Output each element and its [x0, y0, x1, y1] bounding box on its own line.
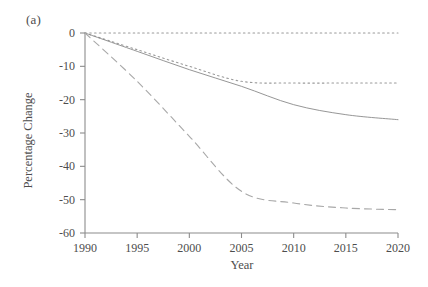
y-tick-label: -10 [41, 60, 75, 72]
figure-panel-a: (a) 0-10-20-30-40-50-60 1990199520002005… [0, 0, 428, 287]
y-tick-label: -30 [41, 127, 75, 139]
data-line-series-4 [85, 33, 398, 210]
y-tick-label: -60 [41, 227, 75, 239]
y-tick-label: -20 [41, 94, 75, 106]
y-axis-title: Percentage Change [21, 61, 36, 221]
y-axis-ticks [80, 33, 85, 233]
y-tick-label: 0 [41, 27, 75, 39]
x-tick-label: 2005 [218, 242, 266, 254]
data-series-group [85, 33, 398, 210]
x-tick-label: 1995 [113, 242, 161, 254]
x-tick-label: 1990 [61, 242, 109, 254]
x-axis-ticks [85, 233, 398, 238]
x-tick-label: 2010 [270, 242, 318, 254]
x-tick-label: 2015 [322, 242, 370, 254]
x-tick-label: 2020 [374, 242, 422, 254]
y-tick-label: -50 [41, 194, 75, 206]
y-tick-label: -40 [41, 160, 75, 172]
x-axis-title: Year [85, 258, 399, 273]
x-tick-label: 2000 [165, 242, 213, 254]
